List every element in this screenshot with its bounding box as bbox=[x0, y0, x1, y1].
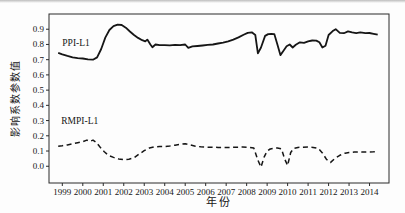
series-label-annotation: PPI-L1 bbox=[62, 38, 90, 48]
series-label-annotation: RMPI-L1 bbox=[61, 116, 98, 126]
y-tick-label: 0.9 bbox=[33, 24, 45, 34]
x-axis-title: 年份 bbox=[49, 193, 389, 209]
y-tick-label: 0.3 bbox=[33, 116, 45, 126]
y-tick-label: 0.5 bbox=[33, 85, 45, 95]
chart-figure: 0.00.10.20.30.40.50.60.70.80.91999200020… bbox=[0, 0, 405, 213]
y-tick-label: 0.4 bbox=[33, 100, 45, 110]
y-tick-label: 0.6 bbox=[33, 70, 45, 80]
series-line-ppi-l1 bbox=[58, 25, 378, 60]
y-tick-label: 0.8 bbox=[33, 39, 45, 49]
line-chart-canvas: 0.00.10.20.30.40.50.60.70.80.91999200020… bbox=[0, 0, 405, 213]
y-tick-label: 0.7 bbox=[33, 55, 45, 65]
series-line-rmpi-l1 bbox=[58, 140, 378, 167]
y-axis-title: 影响系数参数值 bbox=[7, 13, 21, 183]
plot-border bbox=[49, 14, 389, 183]
y-tick-label: 0.0 bbox=[33, 161, 45, 171]
y-tick-label: 0.1 bbox=[33, 146, 44, 156]
y-tick-label: 0.2 bbox=[33, 131, 44, 141]
